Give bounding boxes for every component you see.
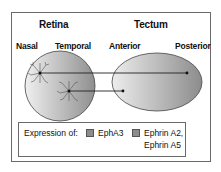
nasal-label: Nasal xyxy=(16,41,38,51)
posterior-label: Posterior xyxy=(175,41,211,51)
legend-ephrin-label-line1: Ephrin A2, xyxy=(144,128,183,138)
legend-prefix: Expression of: xyxy=(24,128,78,138)
epha3-swatch-icon xyxy=(86,129,94,137)
legend-box: Expression of: EphA3 Ephrin A2, Ephrin A… xyxy=(18,122,186,157)
retina-title: Retina xyxy=(39,19,68,30)
tectum-ellipse xyxy=(112,53,202,111)
anterior-label: Anterior xyxy=(109,41,140,51)
temporal-label: Temporal xyxy=(55,41,91,51)
legend-ephrin-label-line2: Ephrin A5 xyxy=(144,140,181,150)
legend-epha3-label: EphA3 xyxy=(98,128,124,138)
ephrin-swatch-icon xyxy=(132,129,140,137)
retina-circle xyxy=(25,51,95,121)
tectum-title: Tectum xyxy=(134,19,168,30)
